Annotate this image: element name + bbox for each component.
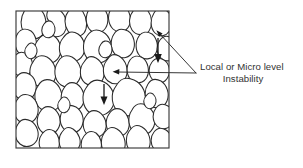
grain-cluster	[12, 5, 177, 157]
grain	[99, 41, 112, 58]
annotation-line-1: Local or Micro level	[198, 61, 302, 73]
grain	[111, 29, 134, 57]
annotation-line-2: Instability	[198, 73, 302, 85]
grain	[65, 8, 87, 36]
grain	[136, 32, 157, 59]
grain	[149, 58, 169, 83]
instability-annotation: Local or Micro level Instability	[198, 61, 302, 86]
figure-root: Local or Micro level Instability	[0, 0, 303, 168]
grain	[42, 21, 55, 38]
